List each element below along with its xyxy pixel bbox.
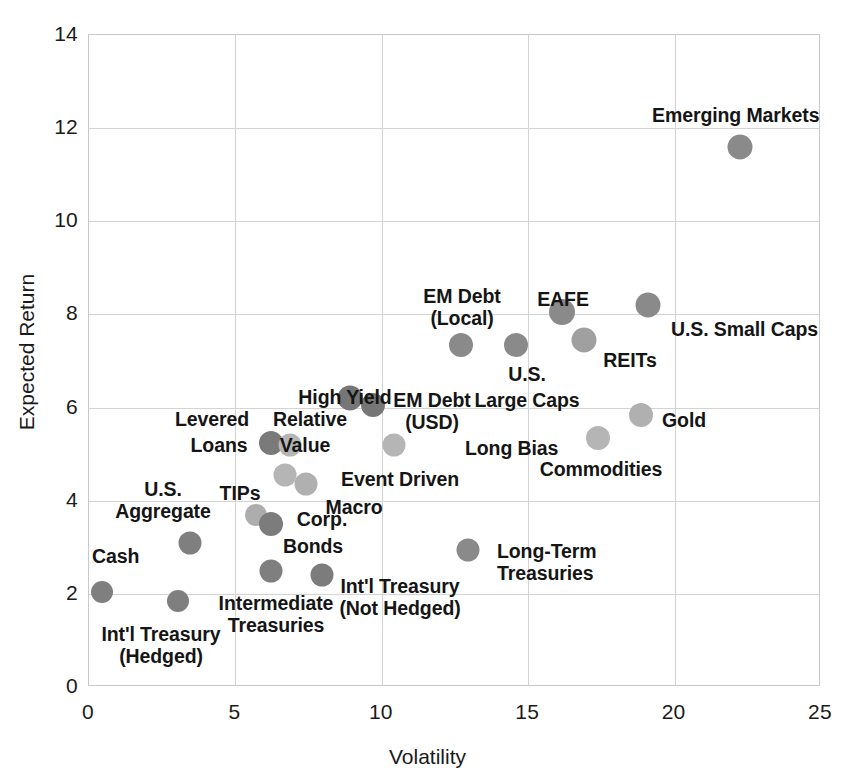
y-axis-tick-label: 14 <box>8 22 78 46</box>
data-point[interactable] <box>259 512 283 536</box>
gridline-vertical <box>235 35 236 685</box>
data-point[interactable] <box>571 328 596 353</box>
data-point[interactable] <box>457 538 480 561</box>
point-label-high-yield: High Yield <box>298 386 391 408</box>
point-label-us-aggregate: U.S. Aggregate <box>115 478 211 522</box>
x-axis-tick-label: 0 <box>82 700 94 724</box>
x-axis-tick-label: 15 <box>515 700 539 724</box>
point-label-emerging-markets: Emerging Markets <box>652 104 819 126</box>
point-label-relative-value: Relative <box>273 408 347 430</box>
point-label-intermediate-treasuries: Intermediate Treasuries <box>219 592 334 636</box>
y-axis-tick-label: 12 <box>8 115 78 139</box>
data-point[interactable] <box>294 473 317 496</box>
point-label-event-driven: Event Driven <box>341 468 459 490</box>
point-label-corp-bonds-2: Bonds <box>283 535 343 557</box>
x-axis-tick-label: 5 <box>228 700 240 724</box>
y-axis-ticks: 02468101214 <box>0 34 78 686</box>
point-label-us-large-caps-2: Large Caps <box>474 389 579 411</box>
data-point[interactable] <box>636 293 661 318</box>
y-axis-tick-label: 4 <box>8 488 78 512</box>
data-point[interactable] <box>728 134 753 159</box>
point-label-intl-treasury-hedged: Int'l Treasury (Hedged) <box>101 623 220 667</box>
y-axis-tick-label: 2 <box>8 581 78 605</box>
y-axis-tick-label: 6 <box>8 395 78 419</box>
x-axis-title: Volatility <box>0 745 855 769</box>
y-axis-tick-label: 10 <box>8 208 78 232</box>
gridline-vertical <box>528 35 529 685</box>
point-label-eafe: EAFE <box>537 288 589 310</box>
x-axis-tick-label: 10 <box>369 700 393 724</box>
point-label-cash: Cash <box>92 545 139 567</box>
point-label-us-large-caps: U.S. <box>508 363 546 385</box>
point-label-long-bias: Long Bias <box>465 437 558 459</box>
point-label-levered-loans: Levered <box>175 408 249 430</box>
point-label-us-small-caps: U.S. Small Caps <box>671 318 818 340</box>
x-axis-tick-label: 20 <box>662 700 686 724</box>
data-point[interactable] <box>382 433 405 456</box>
y-axis-tick-label: 0 <box>8 674 78 698</box>
data-point[interactable] <box>629 403 653 427</box>
data-point[interactable] <box>91 581 113 603</box>
point-label-tips: TIPs <box>220 482 261 504</box>
data-point[interactable] <box>310 564 333 587</box>
gridline-vertical <box>675 35 676 685</box>
point-label-relative-value-2: Value <box>280 434 330 456</box>
point-label-gold: Gold <box>662 409 706 431</box>
point-label-long-term-treasuries: Long-Term Treasuries <box>497 540 596 584</box>
x-axis-ticks: 0510152025 <box>88 700 820 730</box>
gridline-horizontal <box>89 221 819 222</box>
scatter-chart: Expected Return 02468101214 0510152025 V… <box>0 0 855 784</box>
gridline-horizontal <box>89 128 819 129</box>
point-label-intl-treasury-not-hedged: Int'l Treasury (Not Hedged) <box>339 575 460 619</box>
data-point[interactable] <box>259 559 282 582</box>
data-point[interactable] <box>167 590 189 612</box>
point-label-macro: Macro <box>326 496 383 518</box>
data-point[interactable] <box>449 333 473 357</box>
point-label-commodities: Commodities <box>540 458 662 480</box>
data-point[interactable] <box>586 426 610 450</box>
point-label-reits: REITs <box>603 349 656 371</box>
point-label-levered-loans-2: Loans <box>191 434 248 456</box>
point-label-em-debt-local: EM Debt (Local) <box>423 285 500 329</box>
x-axis-tick-label: 25 <box>808 700 832 724</box>
y-axis-tick-label: 8 <box>8 301 78 325</box>
data-point[interactable] <box>504 333 528 357</box>
data-point[interactable] <box>179 531 202 554</box>
point-label-em-debt-usd: EM Debt (USD) <box>393 389 470 433</box>
